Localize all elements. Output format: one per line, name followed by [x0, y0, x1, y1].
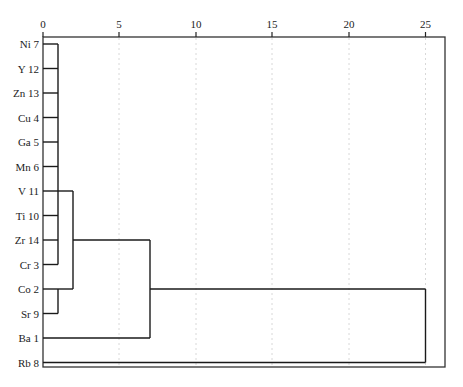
leaf-label: Sr 9 — [21, 308, 40, 320]
x-axis-ticks — [43, 32, 426, 37]
leaf-label: Y 12 — [18, 63, 39, 75]
leaf-label: Mn 6 — [15, 161, 39, 173]
tick-label: 15 — [267, 18, 279, 30]
tick-label: 20 — [344, 18, 356, 30]
plot-frame — [43, 37, 445, 367]
tick-label: 0 — [40, 18, 46, 30]
tick-label: 10 — [191, 18, 203, 30]
grid-lines — [119, 38, 426, 367]
leaf-label: Cu 4 — [18, 112, 40, 124]
leaf-labels: Ni 7 Y 12 Zn 13 Cu 4 Ga 5 Mn 6 V 11 Ti 1… — [13, 38, 39, 369]
leaf-label: Ba 1 — [19, 332, 39, 344]
leaf-label: Zr 14 — [15, 234, 40, 246]
leaf-label: Ga 5 — [18, 136, 40, 148]
leaf-label: Cr 3 — [20, 259, 40, 271]
dendrogram-chart: 0 5 10 15 20 25 Ni 7 Y 12 Zn 13 Cu 4 Ga … — [0, 0, 463, 387]
dendrogram-branches — [43, 44, 426, 363]
leaf-label: Rb 8 — [18, 357, 40, 369]
leaf-label: Ti 10 — [16, 210, 40, 222]
leaf-label: Zn 13 — [13, 87, 39, 99]
leaf-label: Ni 7 — [20, 38, 40, 50]
tick-label: 5 — [116, 18, 122, 30]
tick-label: 25 — [420, 18, 432, 30]
x-axis-tick-labels: 0 5 10 15 20 25 — [40, 18, 431, 30]
leaf-label: Co 2 — [18, 283, 39, 295]
leaf-label: V 11 — [18, 185, 39, 197]
